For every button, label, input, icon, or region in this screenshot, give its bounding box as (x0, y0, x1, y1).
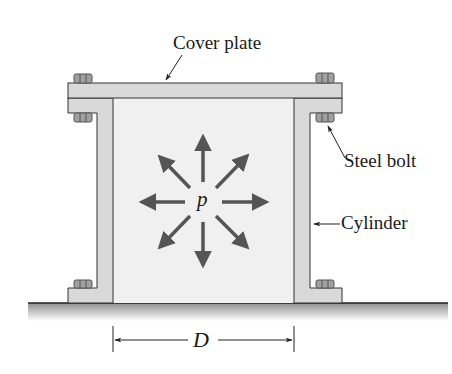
bolt-top-right (316, 73, 334, 83)
cylinder-label: Cylinder (341, 213, 408, 232)
bolt-bottom-left (74, 280, 92, 288)
diameter-label: D (193, 329, 209, 351)
bolt-bottom-right (316, 280, 334, 288)
cover-plate-label: Cover plate (173, 33, 261, 52)
bolt-top-left (74, 74, 92, 83)
cover-plate-leader (166, 55, 182, 80)
pressure-label: p (197, 189, 208, 210)
steel-bolt-leader (328, 126, 345, 158)
cylinder-wall-right (294, 98, 342, 303)
steel-bolt-label: Steel bolt (344, 151, 416, 170)
cover-plate (68, 83, 342, 98)
cylinder-wall-left (68, 98, 113, 303)
cylinder-diagram (0, 0, 452, 374)
bolt-top-left-nut (74, 113, 92, 122)
bolt-top-right-nut (316, 113, 334, 122)
ground (28, 303, 448, 321)
